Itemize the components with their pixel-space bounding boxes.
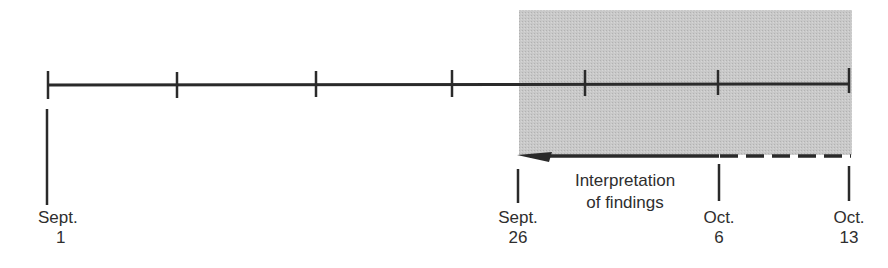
date-label-month: Oct. bbox=[694, 208, 744, 228]
date-label-oct-6: Oct. 6 bbox=[694, 208, 744, 248]
date-label-month: Sept. bbox=[493, 208, 543, 228]
timeline-diagram bbox=[0, 0, 888, 268]
date-label-month: Oct. bbox=[814, 208, 884, 228]
arrow-label-line2: of findings bbox=[555, 191, 695, 215]
date-label-day: 26 bbox=[493, 228, 543, 248]
date-label-sept-26: Sept. 26 bbox=[493, 208, 543, 248]
main-timeline-axis bbox=[48, 84, 849, 85]
date-label-sept-1: Sept. 1 bbox=[38, 208, 88, 248]
date-label-month: Sept. bbox=[38, 208, 88, 228]
date-label-day: 1 bbox=[38, 228, 88, 248]
arrow-label-interpretation: Interpretation of findings bbox=[555, 169, 695, 215]
shaded-period-region bbox=[519, 10, 852, 155]
date-label-day: 6 bbox=[694, 228, 744, 248]
arrow-label-line1: Interpretation bbox=[555, 169, 695, 193]
date-label-day: 13 bbox=[814, 228, 884, 248]
date-label-oct-13: Oct. 13 bbox=[814, 208, 884, 248]
